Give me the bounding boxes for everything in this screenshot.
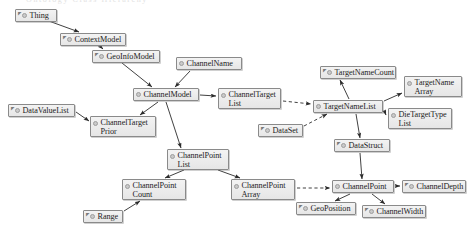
class-node-range[interactable]: ◤Range xyxy=(83,210,123,223)
class-bullet-icon xyxy=(391,113,396,118)
class-node-label: GeoInfoModel xyxy=(106,52,156,61)
class-bullet-icon xyxy=(22,13,27,18)
edge-channel-model-to-channel-target-list xyxy=(200,95,216,96)
class-node-context-model[interactable]: ◤ContextModel xyxy=(60,33,126,46)
class-node-target-name-array[interactable]: TargetName Array xyxy=(404,76,462,97)
diagram-title-fragment: Ontology Class Hierarchy xyxy=(26,0,148,4)
class-node-label: TargetNameCount xyxy=(334,68,393,77)
edge-channel-model-to-channel-point-list xyxy=(166,102,181,148)
class-bullet-icon xyxy=(15,108,20,113)
class-bullet-icon xyxy=(335,184,340,189)
class-bullet-icon xyxy=(99,54,104,59)
edge-channel-point-to-geo-position xyxy=(335,194,350,201)
class-node-thing[interactable]: ◤Thing xyxy=(15,9,57,22)
edge-target-name-list-to-target-name-count xyxy=(340,80,349,99)
class-diagram-canvas: Ontology Class Hierarchy ◤Thing◤ContextM… xyxy=(0,0,476,235)
class-node-label: DataStruct xyxy=(348,141,386,150)
class-node-channel-model[interactable]: ChannelModel xyxy=(133,88,199,101)
class-node-label: Thing xyxy=(29,11,53,20)
edge-channel-point-list-to-channel-point-array xyxy=(218,170,240,178)
class-node-data-struct[interactable]: ◤DataStruct xyxy=(334,139,390,152)
edge-channel-point-to-channel-width xyxy=(372,194,385,204)
class-node-label: ChannelWidth xyxy=(376,207,423,216)
class-bullet-icon xyxy=(409,184,414,189)
edge-range-to-channel-point-count xyxy=(124,201,140,211)
class-node-label: ChannelPoint Count xyxy=(133,182,183,200)
class-bullet-icon xyxy=(316,104,321,109)
edge-geo-info-model-to-channel-model xyxy=(122,63,152,87)
inferred-marker-icon: ◤ xyxy=(299,205,302,210)
class-node-label: TargetName Array xyxy=(415,79,459,97)
class-bullet-icon xyxy=(221,93,226,98)
class-node-label: DataValueList xyxy=(22,106,71,115)
class-node-channel-name[interactable]: ChannelName xyxy=(176,57,242,70)
class-node-channel-point[interactable]: ChannelPoint xyxy=(332,180,394,193)
class-bullet-icon xyxy=(93,121,98,126)
class-node-channel-target-list[interactable]: ChannelTarget List xyxy=(218,88,281,109)
inferred-marker-icon: ◤ xyxy=(323,69,326,74)
class-node-target-name-count[interactable]: ◤TargetNameCount xyxy=(320,66,396,79)
class-node-label: Range xyxy=(97,212,119,221)
inferred-marker-icon: ◤ xyxy=(365,208,368,213)
class-bullet-icon xyxy=(170,154,175,159)
class-bullet-icon xyxy=(234,184,239,189)
edge-channel-model-to-channel-target-prior xyxy=(140,102,158,115)
class-bullet-icon xyxy=(303,206,308,211)
edge-channel-target-list-to-target-name-list xyxy=(283,101,311,104)
edge-data-struct-to-channel-point xyxy=(360,153,362,179)
class-node-label: ChannelPoint Array xyxy=(242,182,292,200)
class-node-label: DieTargetType List xyxy=(399,111,449,129)
edge-context-model-to-geo-info-model xyxy=(100,46,103,49)
class-node-target-name-list[interactable]: TargetNameList xyxy=(313,100,383,113)
class-node-label: ContextModel xyxy=(74,35,122,44)
inferred-marker-icon: ◤ xyxy=(405,183,408,188)
class-node-channel-point-list[interactable]: ChannelPoint List xyxy=(167,149,229,170)
class-bullet-icon xyxy=(327,70,332,75)
inferred-marker-icon: ◤ xyxy=(95,53,98,58)
edge-target-name-list-to-die-target-type-list xyxy=(384,110,386,115)
inferred-marker-icon: ◤ xyxy=(18,12,21,17)
class-node-data-value-list[interactable]: ◤DataValueList xyxy=(8,104,75,117)
edge-target-name-list-to-data-struct xyxy=(356,114,360,138)
class-bullet-icon xyxy=(369,209,374,214)
class-node-geo-info-model[interactable]: ◤GeoInfoModel xyxy=(92,50,160,63)
class-node-label: ChannelModel xyxy=(144,90,196,99)
class-node-geo-position[interactable]: ◤GeoPosition xyxy=(296,202,356,215)
edge-channel-name-to-channel-model xyxy=(175,71,190,87)
edge-channel-point-list-to-channel-point-count xyxy=(165,170,184,178)
class-bullet-icon xyxy=(90,214,95,219)
class-bullet-icon xyxy=(265,128,270,133)
inferred-marker-icon: ◤ xyxy=(86,213,89,218)
class-node-label: GeoPosition xyxy=(310,204,352,213)
class-bullet-icon xyxy=(341,143,346,148)
class-node-label: ChannelName xyxy=(187,59,239,68)
class-bullet-icon xyxy=(136,92,141,97)
edge-data-value-list-to-channel-target-prior xyxy=(76,112,89,121)
class-node-label: DataSet xyxy=(272,126,299,135)
class-node-label: ChannelTarget Prior xyxy=(101,119,153,137)
class-node-label: TargetNameList xyxy=(324,102,380,111)
class-node-channel-point-array[interactable]: ChannelPoint Array xyxy=(231,179,295,200)
class-bullet-icon xyxy=(67,37,72,42)
class-node-data-set[interactable]: ◤DataSet xyxy=(258,124,303,137)
class-node-label: ChannelPoint List xyxy=(178,152,226,170)
class-bullet-icon xyxy=(407,81,412,86)
class-node-channel-width[interactable]: ◤ChannelWidth xyxy=(362,205,426,218)
class-node-channel-target-prior[interactable]: ChannelTarget Prior xyxy=(90,116,156,137)
class-node-label: ChannelDepth xyxy=(416,182,463,191)
class-node-label: ChannelPoint xyxy=(343,182,391,191)
class-bullet-icon xyxy=(125,184,130,189)
class-bullet-icon xyxy=(179,61,184,66)
inferred-marker-icon: ◤ xyxy=(11,107,14,112)
class-node-label: ChannelTarget List xyxy=(229,91,278,109)
inferred-marker-icon: ◤ xyxy=(63,36,66,41)
edge-data-set-to-target-name-list xyxy=(304,114,327,126)
class-node-die-target-type-list[interactable]: DieTargetType List xyxy=(388,108,452,129)
inferred-marker-icon: ◤ xyxy=(261,127,264,132)
inferred-marker-icon: ◤ xyxy=(337,142,340,147)
edge-target-name-list-to-target-name-array xyxy=(384,93,402,101)
class-node-channel-depth[interactable]: ◤ChannelDepth xyxy=(402,180,466,193)
class-node-channel-point-count[interactable]: ChannelPoint Count xyxy=(122,179,186,200)
